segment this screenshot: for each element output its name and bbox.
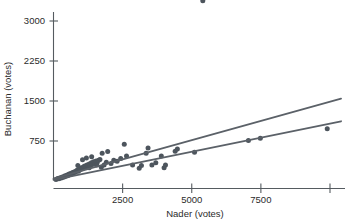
x-axis-title: Nader (votes) <box>166 208 224 219</box>
y-tick-label: 750 <box>29 135 45 146</box>
y-axis-ticks: 750150022503000 <box>24 15 58 146</box>
y-tick-label: 2250 <box>24 55 45 66</box>
data-point <box>97 157 102 162</box>
data-point <box>325 126 330 131</box>
regression-lines-layer <box>54 99 342 180</box>
data-point <box>146 145 151 150</box>
data-point <box>139 163 144 168</box>
y-axis: 750150022503000 <box>24 12 58 180</box>
y-tick-label: 3000 <box>24 15 45 26</box>
data-points-layer <box>53 0 329 182</box>
x-tick-label: 5000 <box>181 194 202 205</box>
data-point <box>200 0 205 3</box>
upper-fit-line <box>54 99 342 179</box>
data-point <box>122 142 127 147</box>
data-point <box>100 151 105 156</box>
data-point <box>89 154 94 159</box>
data-point <box>163 163 168 168</box>
data-point <box>75 163 80 168</box>
data-point <box>175 147 180 152</box>
x-axis-ticks: 250050007500 <box>112 184 330 206</box>
lower-fit-line <box>54 121 342 180</box>
data-point <box>153 160 158 165</box>
data-point <box>80 157 85 162</box>
y-axis-title: Buchanan (votes) <box>2 62 13 136</box>
x-axis: 250050007500 <box>54 184 346 206</box>
x-tick-label: 7500 <box>250 194 271 205</box>
x-tick-label: 2500 <box>112 194 133 205</box>
chart-canvas: 750150022503000 250050007500 Nader (vote… <box>0 0 352 222</box>
y-tick-label: 1500 <box>24 95 45 106</box>
scatter-plot-figure: 750150022503000 250050007500 Nader (vote… <box>0 0 352 222</box>
data-point <box>105 149 110 154</box>
